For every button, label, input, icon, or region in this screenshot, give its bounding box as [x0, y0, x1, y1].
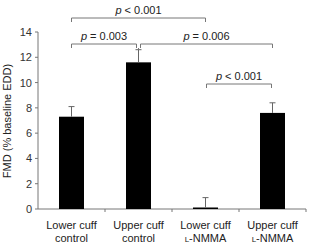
significance-brackets: p < 0.001p = 0.003p = 0.006p < 0.001	[72, 4, 273, 88]
y-axis: 02468101214	[20, 26, 38, 215]
y-axis-label: FMD (% baseline EDD)	[1, 64, 13, 178]
y-tick-label: 12	[20, 51, 32, 63]
x-axis: Lower cuffcontrolUpper cuffcontrolLower …	[38, 209, 306, 244]
x-category-label: Upper cuffcontrol	[113, 219, 164, 244]
y-tick-label: 8	[26, 102, 32, 114]
significance-bracket	[72, 18, 206, 22]
bar	[193, 208, 218, 210]
x-category-label: Lower cuffcontrol	[46, 219, 97, 244]
y-tick-label: 10	[20, 77, 32, 89]
bar-chart: 02468101214 Lower cuffcontrolUpper cuffc…	[0, 0, 314, 250]
p-value-label: p = 0.003	[80, 30, 127, 42]
bar	[59, 117, 84, 209]
x-category-label: Lower cuffL-NMMA	[180, 219, 231, 244]
y-tick-label: 14	[20, 26, 32, 38]
y-tick-label: 0	[26, 203, 32, 215]
y-tick-label: 2	[26, 178, 32, 190]
significance-bracket	[141, 44, 273, 48]
p-value-label: p < 0.001	[114, 4, 161, 16]
x-category-label: Upper cuffL-NMMA	[247, 219, 298, 244]
y-tick-label: 6	[26, 127, 32, 139]
significance-bracket	[72, 44, 137, 48]
y-tick-label: 4	[26, 152, 32, 164]
bar	[260, 113, 285, 209]
significance-bracket	[207, 84, 272, 88]
p-value-label: p < 0.001	[215, 70, 262, 82]
bar	[126, 62, 151, 209]
p-value-label: p = 0.006	[182, 30, 229, 42]
